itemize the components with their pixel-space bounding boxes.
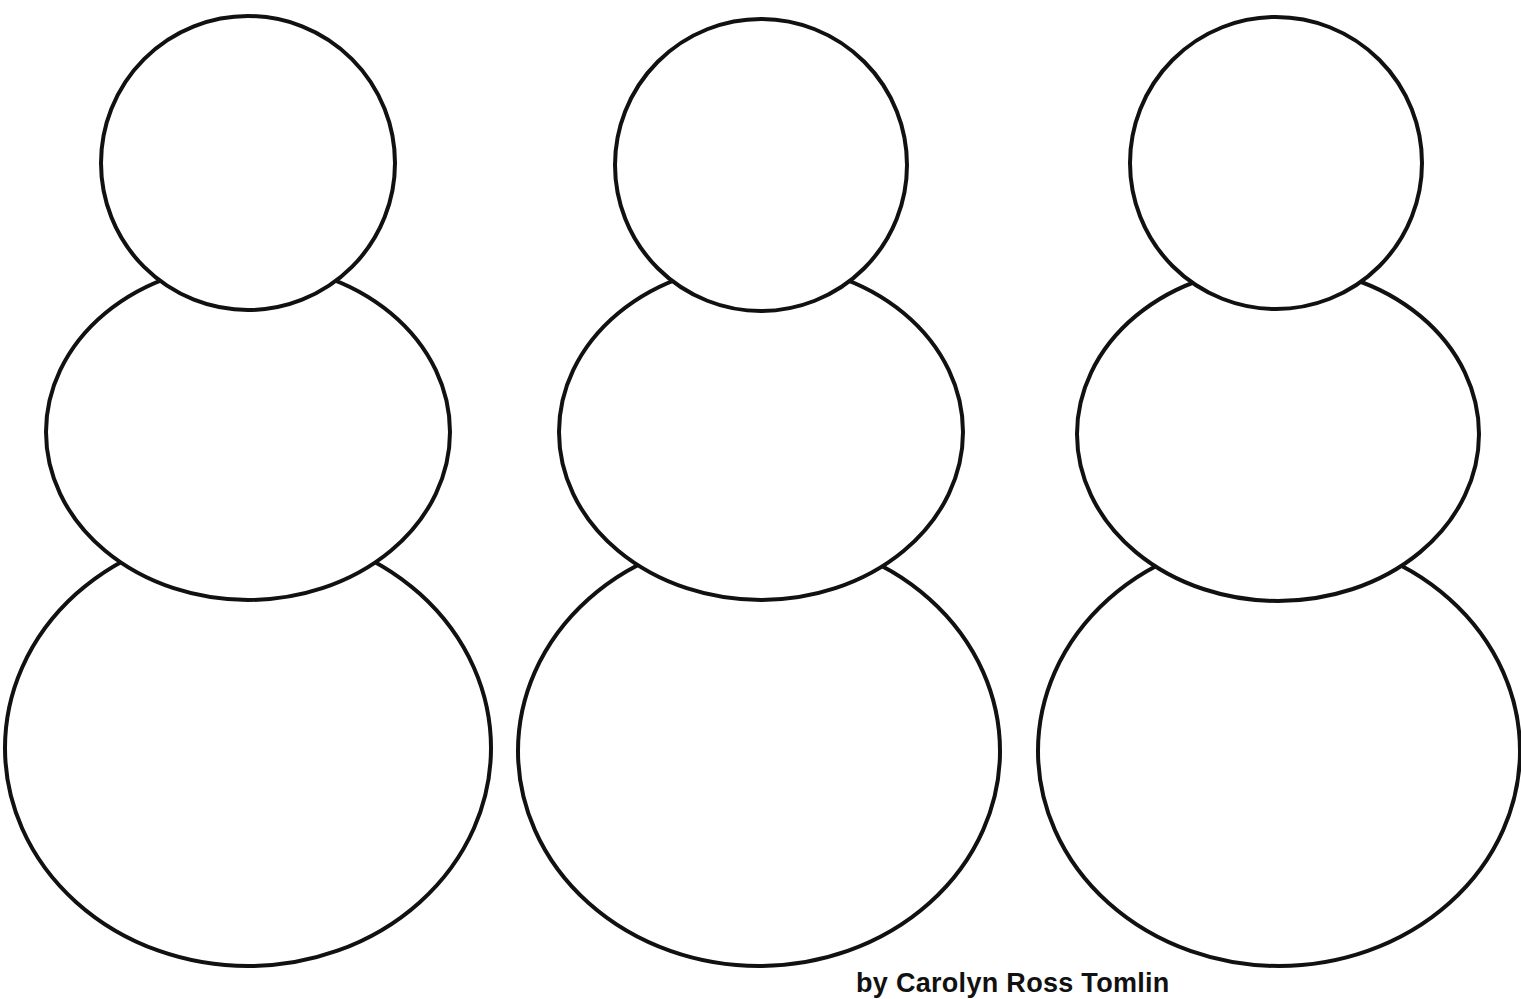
snowman-2: [518, 19, 1000, 966]
snowman-1-head: [101, 16, 395, 310]
snowman-2-middle-ball: [559, 264, 963, 600]
snowman-2-head: [615, 19, 907, 311]
snowman-3: [1038, 17, 1520, 966]
snowman-3-head: [1130, 17, 1422, 309]
snowman-1-middle-ball: [46, 264, 450, 600]
author-credit: by Carolyn Ross Tomlin: [856, 968, 1170, 999]
snowman-1: [5, 16, 491, 966]
snowman-3-middle-ball: [1077, 267, 1479, 601]
